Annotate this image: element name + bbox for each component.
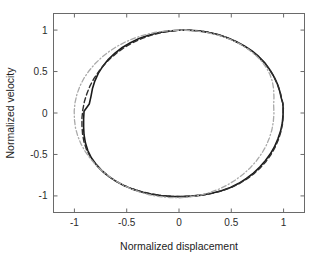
y-tick-label: -1	[39, 190, 48, 201]
figure-container: -1-0.500.51 10.50-0.5-1 Normalized displ…	[0, 0, 321, 258]
y-tick-label: 1	[42, 25, 48, 36]
y-axis-title: Normalized velocity	[4, 67, 16, 159]
x-tick-label: -1	[70, 217, 79, 228]
x-tick-label: 0.5	[224, 217, 238, 228]
chart-background	[0, 0, 321, 258]
y-tick-label: -0.5	[30, 149, 48, 160]
phase-portrait-chart: -1-0.500.51 10.50-0.5-1 Normalized displ…	[0, 0, 321, 258]
y-tick-label: 0.5	[34, 66, 48, 77]
x-tick-label: 1	[281, 217, 287, 228]
x-axis-title: Normalized displacement	[120, 240, 238, 252]
x-tick-label: -0.5	[118, 217, 136, 228]
x-tick-label: 0	[176, 217, 182, 228]
y-tick-label: 0	[42, 108, 48, 119]
